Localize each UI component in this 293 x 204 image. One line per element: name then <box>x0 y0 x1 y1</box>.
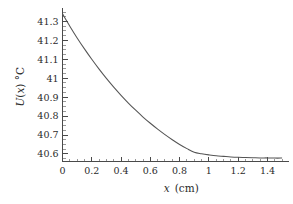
x-tick-label: 0.8 <box>172 165 187 176</box>
x-tick-label: 1.2 <box>231 165 246 176</box>
y-tick-label: 41.3 <box>37 16 58 27</box>
x-tick-label: 0.6 <box>143 165 158 176</box>
figure-container: 40.640.740.840.94141.141.241.3 00.20.40.… <box>0 0 293 204</box>
x-tick-label: 0.2 <box>84 165 99 176</box>
x-tick-label: 0.4 <box>113 165 128 176</box>
y-tick-label: 40.7 <box>37 129 58 140</box>
x-tick-label: 0 <box>59 165 65 176</box>
y-tick-label: 41.2 <box>37 35 58 46</box>
y-tick-label: 40.8 <box>37 110 58 121</box>
x-tick-label: 1.4 <box>260 165 275 176</box>
y-tick-label: 40.9 <box>37 92 58 103</box>
x-axis-title: x (cm) <box>164 182 199 194</box>
x-tick-label: 1 <box>206 165 212 176</box>
y-tick-label: 41 <box>46 73 58 84</box>
y-tick-label: 40.6 <box>37 148 58 159</box>
temperature-decay-chart: 40.640.740.840.94141.141.241.3 00.20.40.… <box>0 0 293 204</box>
y-tick-label: 41.1 <box>37 54 58 65</box>
x-axis-title-symbol: x <box>164 182 170 194</box>
x-axis-title-unit: (cm) <box>175 182 199 194</box>
y-axis-title-text: U(x) °C <box>14 67 26 107</box>
y-axis-title: U(x) °C <box>14 67 26 107</box>
